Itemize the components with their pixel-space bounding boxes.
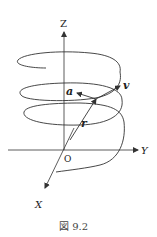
figure-caption: 図 9.2 — [59, 221, 88, 232]
origin-label: O — [64, 154, 71, 164]
z-axis-label: Z — [60, 18, 67, 29]
helix-diagram: Z Y X O r a v 図 9.2 — [0, 0, 157, 237]
v-label: v — [123, 79, 130, 92]
r-label: r — [81, 117, 88, 130]
velocity-vector-v — [96, 86, 120, 99]
y-axis-label: Y — [141, 145, 149, 156]
acceleration-vector-a — [77, 93, 96, 99]
a-label: a — [66, 85, 73, 98]
x-axis-label: X — [34, 199, 43, 210]
